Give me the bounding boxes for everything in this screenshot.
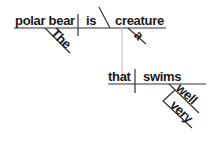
verb-word: is <box>86 14 96 27</box>
clause-subject-word: that <box>108 70 131 83</box>
predicate-slant <box>99 7 110 28</box>
subject-word: polar bear <box>15 14 75 27</box>
clause-verb-word: swims <box>143 70 181 83</box>
predicate-noun-word: creature <box>115 14 164 27</box>
